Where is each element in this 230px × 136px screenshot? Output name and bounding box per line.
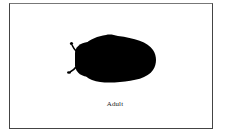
- figure-caption: Adult: [0, 100, 230, 108]
- beetle-silhouette-icon: [64, 33, 158, 85]
